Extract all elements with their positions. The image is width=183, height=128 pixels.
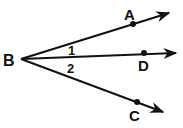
label-b: B: [3, 52, 15, 69]
label-c: C: [129, 107, 140, 124]
angle-diagram: B A D C 1 2: [0, 0, 183, 128]
label-a: A: [124, 6, 135, 23]
angle-2-label: 2: [67, 61, 74, 76]
angle-1-label: 1: [68, 43, 75, 58]
point-c-dot: [134, 99, 140, 105]
ray-bd: [21, 53, 176, 59]
label-d: D: [138, 57, 149, 74]
diagram-svg: B A D C 1 2: [0, 0, 183, 128]
point-d-dot: [141, 50, 147, 56]
